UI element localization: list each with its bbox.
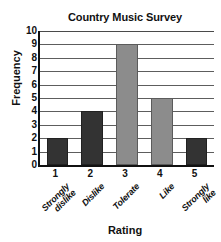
y-tick-label: 4 <box>31 106 37 116</box>
x-axis-label: Rating <box>38 224 212 236</box>
gridline <box>40 31 214 32</box>
plot-area: 012345678910 <box>38 31 214 167</box>
y-tick-label: 3 <box>31 120 37 130</box>
y-tick-label: 2 <box>31 133 37 143</box>
y-tick-label: 1 <box>31 147 37 157</box>
bar <box>116 44 138 165</box>
y-tick-label: 7 <box>31 66 37 76</box>
bar <box>47 138 69 165</box>
chart-title: Country Music Survey <box>38 11 212 23</box>
x-tick-label: 1 <box>53 168 59 179</box>
x-tick-label: 2 <box>87 168 93 179</box>
bar <box>186 138 208 165</box>
bar <box>151 98 173 165</box>
y-tick-label: 9 <box>31 39 37 49</box>
y-tick-label: 8 <box>31 53 37 63</box>
y-axis-label: Frequency <box>10 33 22 123</box>
x-tick-label: 3 <box>122 168 128 179</box>
y-tick-label: 5 <box>31 93 37 103</box>
x-tick-label: 5 <box>192 168 198 179</box>
y-tick-label: 10 <box>26 26 37 36</box>
x-tick-label: 4 <box>157 168 163 179</box>
y-tick-label: 6 <box>31 80 37 90</box>
y-tick-label: 0 <box>31 160 37 170</box>
bar-chart: Country Music Survey Frequency 012345678… <box>0 0 221 242</box>
bar <box>81 111 103 165</box>
